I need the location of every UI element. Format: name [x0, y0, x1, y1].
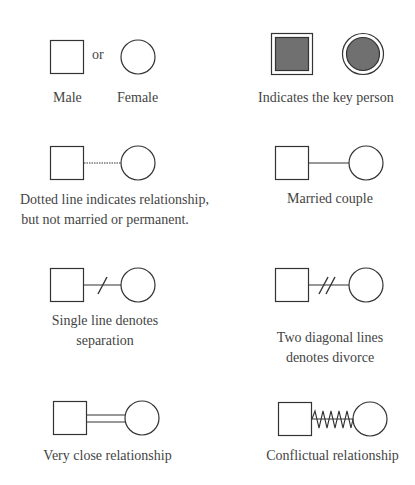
married-symbols [275, 146, 385, 182]
male-square-icon [54, 402, 87, 435]
separation-label-line2: separation [20, 331, 190, 351]
male-square-icon [51, 147, 84, 180]
female-circle-icon [121, 146, 155, 180]
female-circle-icon [125, 401, 159, 435]
male-square-icon [276, 269, 309, 302]
close-label: Very close relationship [20, 446, 195, 466]
key-person-label: Indicates the key person [258, 88, 394, 108]
key-person-symbols [271, 33, 386, 77]
female-circle-icon [349, 146, 383, 180]
male-label: Male [53, 88, 82, 108]
male-square-icon [51, 41, 84, 74]
divorce-label-line2: denotes divorce [250, 348, 410, 368]
dotted-label-line2: but not married or permanent. [20, 210, 190, 230]
or-text: or [92, 45, 104, 65]
female-circle-icon [121, 40, 155, 74]
female-circle-icon [121, 268, 155, 302]
key-female-circle-icon [343, 34, 384, 75]
dotted-label-line1: Dotted line indicates relationship, [20, 190, 190, 210]
female-label: Female [117, 88, 158, 108]
conflict-label: Conflictual relationship [250, 446, 415, 466]
female-circle-icon [349, 268, 383, 302]
male-square-icon [279, 403, 312, 436]
male-square-icon [276, 147, 309, 180]
separation-symbols [50, 268, 160, 304]
female-circle-icon [353, 402, 387, 436]
male-square-icon [51, 269, 84, 302]
key-male-square-icon [272, 34, 313, 75]
married-label: Married couple [250, 189, 410, 209]
gender-symbols [50, 40, 160, 76]
divorce-label-line1: Two diagonal lines [250, 328, 410, 348]
separation-label-line1: Single line denotes [20, 311, 190, 331]
dotted-symbols [50, 146, 160, 182]
divorce-symbols [275, 268, 385, 304]
conflict-symbols [278, 402, 388, 438]
close-symbols [53, 401, 163, 437]
